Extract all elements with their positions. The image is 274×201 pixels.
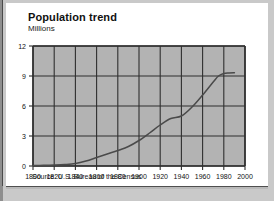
y-axis-tick-label: 0 [22,163,26,170]
chart-screenshot: Population trend Millions Source: U.S. B… [0,0,274,201]
x-axis-tick-label: 1940 [174,173,190,180]
x-axis-tick-label: 1860 [89,173,105,180]
x-axis-tick-label: 1800 [25,173,41,180]
x-axis-tick-label: 1900 [131,173,147,180]
x-axis-tick-label: 1820 [46,173,62,180]
y-axis-tick-label: 3 [22,133,26,140]
y-axis-tick-label: 6 [22,103,26,110]
chart-plot-area: 0369121800182018401860188019001920194019… [0,0,274,201]
x-axis-tick-label: 2000 [237,173,253,180]
x-axis-tick-label: 1840 [68,173,84,180]
x-axis-tick-label: 1960 [195,173,211,180]
line-chart-svg: 0369121800182018401860188019001920194019… [0,0,274,201]
x-axis-tick-label: 1980 [216,173,232,180]
y-axis-tick-label: 12 [18,43,26,50]
x-axis-tick-label: 1880 [110,173,126,180]
y-axis-tick-label: 9 [22,73,26,80]
x-axis-tick-label: 1920 [152,173,168,180]
